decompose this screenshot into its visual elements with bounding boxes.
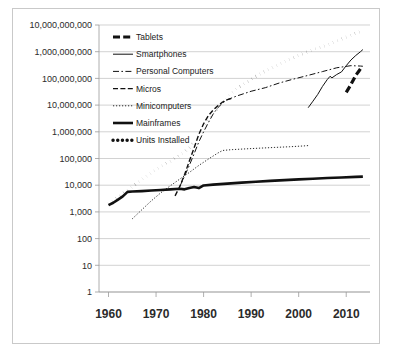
gridlines — [99, 25, 370, 292]
legend-label-units-installed: Units Installed — [136, 135, 190, 145]
legend-label-minicomputers: Minicomputers — [136, 101, 191, 111]
chart-frame: 10,000,000,0001,000,000,000100,000,00010… — [12, 8, 380, 344]
y-axis-tick-label: 100,000,000 — [42, 74, 92, 84]
chart-legend: TabletsSmartphonesPersonal ComputersMicr… — [113, 32, 213, 145]
y-axis-tick-label: 100,000 — [59, 154, 92, 164]
x-axis-tick-label: 1980 — [190, 307, 217, 321]
y-axis-tick-label: 1,000,000 — [52, 127, 92, 137]
series-line-tablets — [346, 67, 363, 92]
y-axis-tick-label: 1,000 — [69, 207, 92, 217]
x-axis-tick-label: 2000 — [285, 307, 312, 321]
legend-label-micros: Micros — [136, 84, 161, 94]
x-axis-tick-labels: 196019701980199020002010 — [95, 307, 360, 321]
y-axis-tick-label: 1,000,000,000 — [34, 47, 92, 57]
x-axis-tick-label: 1970 — [143, 307, 170, 321]
y-axis-tick-label: 10 — [82, 261, 92, 271]
series-line-mainframes — [109, 177, 363, 205]
y-axis-tick-label: 10,000 — [64, 180, 92, 190]
legend-label-personal-computers: Personal Computers — [136, 66, 213, 76]
x-axis-tick-label: 1990 — [238, 307, 265, 321]
line-chart: 10,000,000,0001,000,000,000100,000,00010… — [13, 9, 379, 343]
series-line-micros — [175, 98, 232, 196]
series-line-personal-computers — [180, 66, 363, 187]
legend-label-mainframes: Mainframes — [136, 118, 180, 128]
legend-label-tablets: Tablets — [136, 32, 163, 42]
y-axis-tick-labels: 10,000,000,0001,000,000,000100,000,00010… — [29, 20, 92, 297]
legend-label-smartphones: Smartphones — [136, 49, 187, 59]
y-axis-tick-label: 10,000,000,000 — [29, 20, 92, 30]
y-axis-tick-label: 100 — [77, 234, 92, 244]
y-axis-tick-label: 1 — [87, 287, 92, 297]
series-line-minicomputers — [132, 146, 308, 219]
y-axis-tick-label: 10,000,000 — [47, 100, 92, 110]
x-axis-tick-label: 1960 — [95, 307, 122, 321]
x-axis-tick-label: 2010 — [333, 307, 360, 321]
